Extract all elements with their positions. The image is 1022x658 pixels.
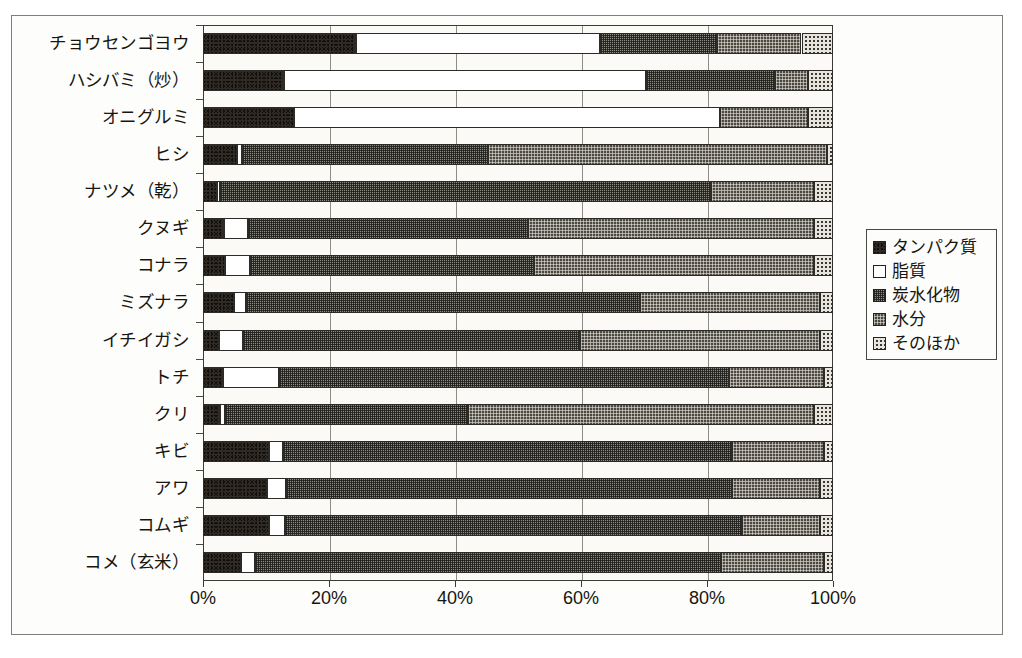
bar-row [203, 433, 833, 470]
y-tick-mark [196, 25, 203, 26]
bar-segment-fat [267, 478, 286, 499]
bar-segment-carb [246, 292, 640, 313]
bar-segment-carb [600, 33, 717, 54]
bar-segment-carb [279, 367, 729, 388]
bar-segment-carb [248, 218, 528, 239]
bar-segment-protein [203, 181, 217, 202]
bar-row [203, 210, 833, 247]
stacked-bar [203, 107, 833, 128]
bar-segment-other [820, 478, 833, 499]
bar-segment-fat [224, 218, 248, 239]
stacked-bar [203, 515, 833, 536]
bar-segment-water [732, 441, 823, 462]
bars-layer [203, 25, 833, 581]
x-axis-label: 80% [662, 588, 752, 609]
stacked-bar [203, 292, 833, 313]
bar-row [203, 359, 833, 396]
legend-item[interactable]: タンパク質 [873, 235, 992, 259]
y-tick-mark [196, 99, 203, 100]
bar-segment-protein [203, 107, 294, 128]
bar-segment-protein [203, 218, 224, 239]
bar-segment-other [824, 441, 833, 462]
bar-segment-fat [269, 515, 285, 536]
bar-segment-protein [203, 515, 269, 536]
legend-label: そのほか [892, 335, 960, 352]
bar-segment-protein [203, 255, 225, 276]
stacked-bar [203, 33, 833, 54]
bar-segment-water [534, 255, 814, 276]
y-tick-mark [196, 136, 203, 137]
bar-segment-water [580, 330, 821, 351]
bar-segment-water [721, 552, 824, 573]
bar-segment-carb [242, 144, 488, 165]
y-tick-mark [196, 470, 203, 471]
category-label: コメ（玄米） [84, 544, 189, 581]
bar-segment-water [640, 292, 820, 313]
x-tick-mark [833, 581, 834, 587]
bar-segment-fat [241, 552, 255, 573]
bar-row [203, 470, 833, 507]
legend-label: タンパク質 [892, 239, 977, 256]
legend: タンパク質脂質炭水化物水分そのほか [866, 229, 997, 360]
bar-segment-protein [203, 292, 234, 313]
y-tick-mark [196, 322, 203, 323]
bar-row [203, 284, 833, 321]
legend-item[interactable]: 炭水化物 [873, 283, 992, 307]
bar-segment-other [824, 552, 833, 573]
y-tick-mark [196, 359, 203, 360]
bar-segment-water [528, 218, 814, 239]
category-label: ハシバミ（炒） [68, 62, 190, 99]
legend-item[interactable]: 脂質 [873, 259, 992, 283]
bar-segment-fat [294, 107, 719, 128]
stacked-bar [203, 144, 833, 165]
bar-segment-water [729, 367, 824, 388]
bar-segment-water [468, 404, 815, 425]
y-tick-mark [196, 507, 203, 508]
x-axis-label: 60% [536, 588, 626, 609]
y-tick-mark [196, 396, 203, 397]
stacked-bar [203, 255, 833, 276]
x-tick-mark [581, 581, 582, 587]
bar-segment-other [814, 181, 833, 202]
bar-segment-protein [203, 33, 356, 54]
y-tick-mark [196, 62, 203, 63]
stacked-bar [203, 367, 833, 388]
legend-swatch-icon [873, 265, 886, 278]
bar-segment-carb [283, 441, 732, 462]
bar-segment-water [717, 33, 801, 54]
x-tick-mark [203, 581, 204, 587]
bar-segment-other [808, 70, 833, 91]
stacked-bar [203, 330, 833, 351]
bar-segment-water [775, 70, 808, 91]
bar-segment-carb [220, 181, 711, 202]
bar-row [203, 99, 833, 136]
bar-segment-water [742, 515, 821, 536]
bar-segment-fat [284, 70, 646, 91]
stacked-bar [203, 552, 833, 573]
bar-segment-carb [646, 70, 775, 91]
stacked-bar [203, 404, 833, 425]
y-tick-mark [196, 284, 203, 285]
y-tick-mark [196, 433, 203, 434]
x-tick-mark [707, 581, 708, 587]
bar-segment-protein [203, 144, 237, 165]
category-label: コナラ [137, 247, 190, 284]
legend-item[interactable]: 水分 [873, 307, 992, 331]
bar-row [203, 544, 833, 581]
bar-segment-other [814, 218, 833, 239]
category-label: ナツメ（乾） [84, 173, 189, 210]
bar-segment-other [827, 144, 833, 165]
bar-segment-other [814, 255, 833, 276]
x-axis-label: 0% [158, 588, 248, 609]
bar-row [203, 396, 833, 433]
legend-item[interactable]: そのほか [873, 331, 992, 355]
bar-segment-carb [286, 478, 732, 499]
category-axis-labels: チョウセンゴヨウハシバミ（炒）オニグルミヒシナツメ（乾）クヌギコナラミズナライチ… [0, 25, 196, 581]
bar-row [203, 136, 833, 173]
y-tick-mark [196, 173, 203, 174]
bar-row [203, 247, 833, 284]
x-tick-mark [455, 581, 456, 587]
legend-label: 水分 [892, 311, 926, 328]
bar-segment-water [732, 478, 820, 499]
bar-segment-protein [203, 330, 219, 351]
